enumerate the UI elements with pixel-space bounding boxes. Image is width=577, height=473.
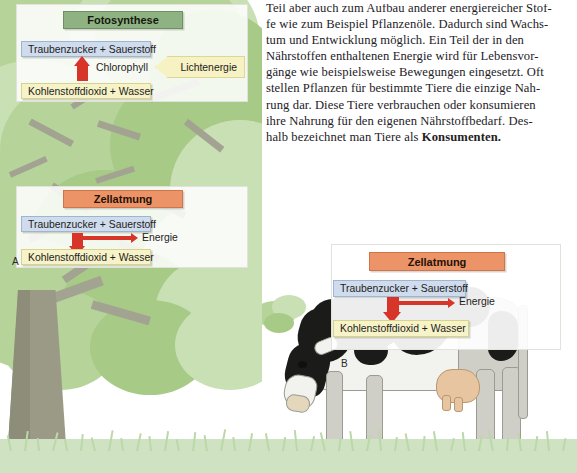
photosynthesis-title: Fotosynthese <box>63 11 183 29</box>
photosynthesis-chlorophyll-label: Chlorophyll <box>96 62 148 73</box>
grass-blades <box>0 429 262 451</box>
respiration-animal-product-box: Kohlenstoffdioxid + Wasser <box>333 320 469 337</box>
respiration-animal-energy-label: Energie <box>459 296 495 307</box>
body-paragraph: Teil aber auch zum Aufbau anderer energi… <box>266 0 571 145</box>
body-text-column: Teil aber auch zum Aufbau anderer energi… <box>266 0 571 170</box>
photosynthesis-product-box: Traubenzucker + Sauerstoff <box>21 41 151 57</box>
top-clip-strip <box>266 0 571 4</box>
figure-label-b: B <box>341 358 348 369</box>
respiration-plant-educt-box: Traubenzucker + Sauerstoff <box>21 216 151 232</box>
text-line: Nährstoffen enthaltenen Energie wird für… <box>266 48 571 64</box>
text-line-final: halb bezeichnet man Tiere als Konsumente… <box>266 129 571 145</box>
text-line: gänge wie beispielsweise Bewegungen eing… <box>266 64 571 80</box>
text-line: rung dar. Diese Tiere verbrauchen oder k… <box>266 97 571 113</box>
respiration-animal-educt-box: Traubenzucker + Sauerstoff <box>333 280 466 297</box>
respiration-plant-product-box: Kohlenstoffdioxid + Wasser <box>21 249 151 265</box>
respiration-plant-energy-label: Energie <box>142 232 178 243</box>
page-root: Fotosynthese Traubenzucker + Sauerstoff … <box>0 0 577 473</box>
cow-grass-blades <box>262 429 577 451</box>
key-term-konsumenten: Konsumenten. <box>422 130 501 144</box>
respiration-animal-title: Zellatmung <box>369 252 505 271</box>
text-line: stellen Pflanzen für bestimmte Tiere die… <box>266 80 571 96</box>
photosynthesis-light-energy-arrow: Lichtenergie <box>155 56 245 78</box>
figure-label-a: A <box>12 256 19 267</box>
photosynthesis-educt-box: Kohlenstoffdioxid + Wasser <box>21 83 151 99</box>
text-line: fe wie zum Beispiel Pflanzenöle. Dadurch… <box>266 16 571 32</box>
text-line: ihre Nahrung für den eigenen Nährstoffbe… <box>266 113 571 129</box>
text-line: tum und Entwicklung möglich. Ein Teil de… <box>266 32 571 48</box>
respiration-plant-title: Zellatmung <box>63 190 183 208</box>
